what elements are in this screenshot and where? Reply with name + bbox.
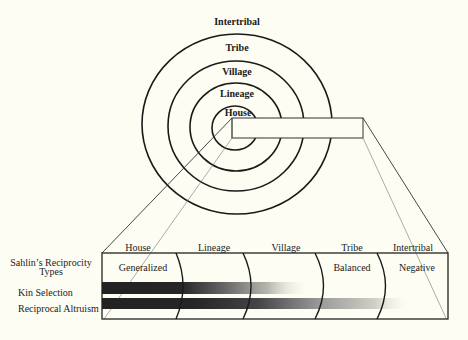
column-header-tribe: Tribe — [341, 242, 363, 253]
ring-label-tribe: Tribe — [225, 42, 249, 53]
ring-label-intertribal: Intertribal — [214, 16, 260, 27]
type-balanced: Balanced — [333, 262, 370, 273]
column-header-house: House — [125, 242, 151, 253]
column-header-lineage: Lineage — [198, 242, 231, 253]
column-header-village: Village — [272, 242, 301, 253]
ring-label-village: Village — [222, 66, 252, 77]
type-generalized: Generalized — [119, 262, 167, 273]
reciprocal-altruism-bar — [102, 298, 414, 309]
column-header-intertribal: Intertribal — [393, 242, 433, 253]
reciprocity-diagram: Intertribal Tribe Village Lineage House … — [0, 0, 468, 340]
ring-label-lineage: Lineage — [220, 88, 254, 99]
kin-selection-bar — [102, 282, 312, 294]
ring-label-house: House — [225, 107, 252, 118]
slice-rectangle — [232, 118, 363, 138]
diagram-canvas: Intertribal Tribe Village Lineage House … — [0, 0, 468, 340]
row-label-sahlins-2: Types — [39, 266, 63, 277]
row-label-reciprocal-altruism: Reciprocal Altruism — [18, 303, 99, 314]
type-negative: Negative — [399, 262, 436, 273]
row-label-kin-selection: Kin Selection — [18, 287, 73, 298]
